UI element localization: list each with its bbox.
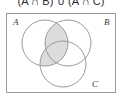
venn-diagram-figure: (A ∩ B) ∪ (A ∩ C) [0, 0, 122, 100]
venn-svg [0, 0, 122, 100]
diagram-canvas [0, 0, 122, 100]
set-label-a: A [13, 18, 19, 27]
set-label-c: C [92, 80, 98, 89]
set-label-b: B [104, 18, 110, 27]
